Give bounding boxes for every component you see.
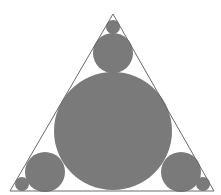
circles-group: [15, 20, 210, 192]
triangle-circles-diagram: [0, 0, 221, 195]
large-center-circle: [54, 72, 172, 190]
bottom-right-small-circle: [196, 177, 210, 191]
bottom-left-medium-circle: [25, 152, 65, 192]
